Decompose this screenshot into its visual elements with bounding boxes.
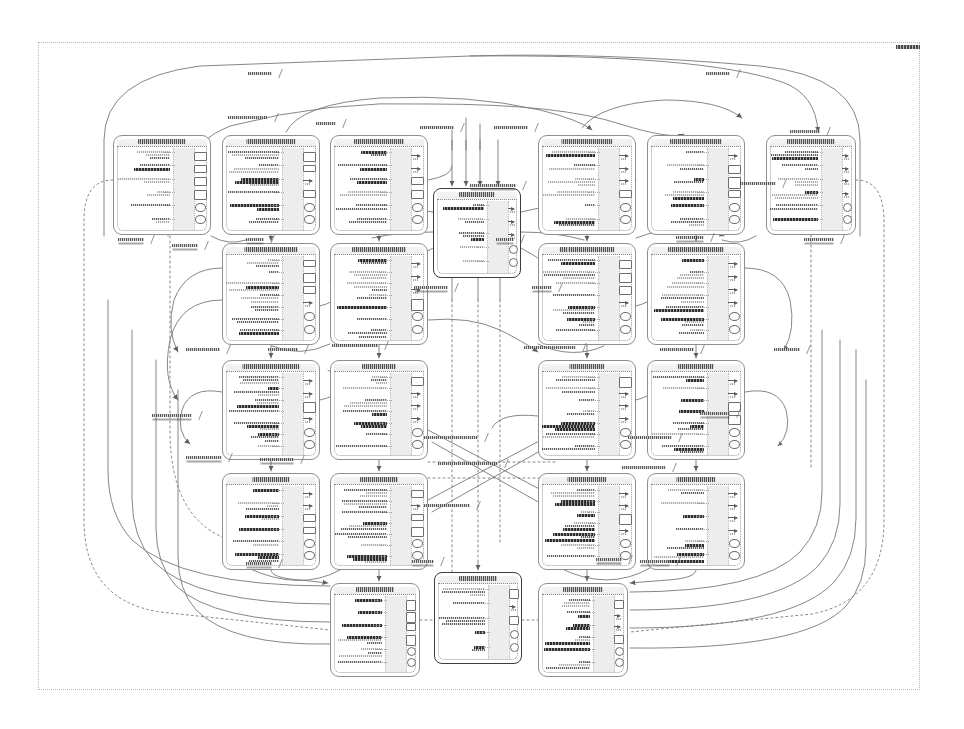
node-row1-col3[interactable] — [330, 135, 428, 235]
node-row2-col2[interactable] — [222, 243, 320, 345]
node-port-arrow[interactable] — [728, 155, 737, 156]
node-port-box[interactable] — [406, 612, 416, 623]
node-port-ellipse[interactable] — [304, 440, 315, 449]
node-port-arrow[interactable] — [303, 493, 312, 494]
node-port-arrow[interactable] — [303, 380, 312, 381]
node-port-arrow[interactable] — [619, 505, 628, 506]
node-row2-col4[interactable] — [538, 243, 636, 345]
node-row3-col5[interactable] — [647, 360, 745, 460]
node-port-arrow[interactable] — [411, 263, 420, 264]
node-row4-col3[interactable] — [330, 473, 428, 570]
node-port-ellipse[interactable] — [412, 312, 423, 321]
node-port-arrow[interactable] — [303, 505, 312, 506]
node-port-ellipse[interactable] — [620, 312, 631, 321]
node-port-arrow[interactable] — [842, 180, 848, 181]
node-port-box[interactable] — [411, 299, 424, 311]
node-port-box[interactable] — [194, 177, 207, 186]
node-port-arrow[interactable] — [728, 505, 737, 506]
node-port-arrow[interactable] — [728, 263, 737, 264]
node-port-ellipse[interactable] — [304, 312, 315, 321]
node-port-ellipse[interactable] — [843, 203, 852, 212]
node-port-box[interactable] — [619, 377, 632, 388]
node-port-arrow[interactable] — [411, 276, 420, 277]
node-port-box[interactable] — [411, 527, 424, 537]
node-port-ellipse[interactable] — [412, 215, 423, 224]
node-port-ellipse[interactable] — [304, 203, 315, 212]
node-port-arrow[interactable] — [303, 418, 312, 419]
node-port-arrow[interactable] — [509, 606, 515, 607]
node-port-ellipse[interactable] — [615, 658, 624, 667]
node-port-ellipse[interactable] — [510, 643, 519, 652]
node-port-ellipse[interactable] — [412, 551, 423, 560]
node-port-ellipse[interactable] — [509, 245, 518, 254]
node-port-box[interactable] — [303, 260, 316, 267]
node-port-box[interactable] — [614, 600, 624, 609]
node-port-box[interactable] — [406, 600, 416, 611]
node-port-ellipse[interactable] — [304, 551, 315, 560]
node-port-arrow[interactable] — [728, 276, 737, 277]
node-port-box[interactable] — [303, 286, 316, 294]
node-port-arrow[interactable] — [411, 418, 420, 419]
node-port-ellipse[interactable] — [195, 215, 206, 224]
node-port-arrow[interactable] — [728, 517, 737, 518]
node-row1-col2[interactable] — [222, 135, 320, 235]
node-port-box[interactable] — [303, 152, 316, 162]
node-port-arrow[interactable] — [411, 393, 420, 394]
node-port-box[interactable] — [728, 165, 741, 174]
node-port-box[interactable] — [303, 527, 316, 534]
node-port-arrow[interactable] — [728, 530, 737, 531]
node-port-box[interactable] — [411, 490, 424, 498]
node-row3-col4[interactable] — [538, 360, 636, 460]
node-row2-col5[interactable] — [647, 243, 745, 345]
node-port-ellipse[interactable] — [729, 440, 740, 449]
node-row4-col2[interactable] — [222, 473, 320, 570]
node-bottom-right[interactable] — [538, 583, 628, 677]
node-port-box[interactable] — [509, 616, 519, 625]
node-port-arrow[interactable] — [411, 289, 420, 290]
node-port-arrow[interactable] — [619, 405, 628, 406]
node-port-arrow[interactable] — [728, 493, 737, 494]
node-port-ellipse[interactable] — [412, 539, 423, 548]
node-port-ellipse[interactable] — [729, 551, 740, 560]
node-port-box[interactable] — [619, 514, 632, 525]
node-row1-col4[interactable] — [538, 135, 636, 235]
node-port-box[interactable] — [411, 514, 424, 521]
node-port-box[interactable] — [303, 514, 316, 522]
node-port-ellipse[interactable] — [620, 215, 631, 224]
node-port-box[interactable] — [303, 402, 316, 413]
node-port-ellipse[interactable] — [729, 325, 740, 334]
node-port-arrow[interactable] — [842, 168, 848, 169]
node-row3-col3[interactable] — [330, 360, 428, 460]
node-port-arrow[interactable] — [508, 234, 514, 235]
node-central-hub[interactable] — [433, 188, 521, 278]
node-port-ellipse[interactable] — [729, 203, 740, 212]
node-port-box[interactable] — [194, 190, 207, 200]
node-port-arrow[interactable] — [728, 302, 737, 303]
node-row2-col3[interactable] — [330, 243, 428, 345]
node-port-ellipse[interactable] — [304, 428, 315, 437]
node-port-box[interactable] — [728, 190, 741, 198]
node-port-box[interactable] — [406, 623, 416, 631]
node-port-ellipse[interactable] — [412, 428, 423, 437]
node-port-box[interactable] — [303, 190, 316, 198]
node-port-ellipse[interactable] — [510, 630, 519, 639]
node-port-ellipse[interactable] — [729, 312, 740, 321]
node-port-arrow[interactable] — [411, 168, 420, 169]
node-bottom-center[interactable] — [434, 572, 522, 664]
node-port-box[interactable] — [303, 273, 316, 283]
node-port-arrow[interactable] — [508, 208, 514, 209]
node-port-box[interactable] — [406, 635, 416, 646]
node-port-arrow[interactable] — [728, 289, 737, 290]
node-port-ellipse[interactable] — [412, 203, 423, 212]
node-row1-col5[interactable] — [647, 135, 745, 235]
node-port-arrow[interactable] — [619, 302, 628, 303]
node-port-arrow[interactable] — [411, 505, 420, 506]
node-port-arrow[interactable] — [303, 180, 312, 181]
node-row4-col5[interactable] — [647, 473, 745, 570]
node-port-arrow[interactable] — [614, 615, 620, 616]
node-port-box[interactable] — [411, 177, 424, 185]
node-port-ellipse[interactable] — [412, 325, 423, 334]
node-port-box[interactable] — [194, 165, 207, 173]
node-port-box[interactable] — [619, 286, 632, 295]
node-port-arrow[interactable] — [303, 302, 312, 303]
